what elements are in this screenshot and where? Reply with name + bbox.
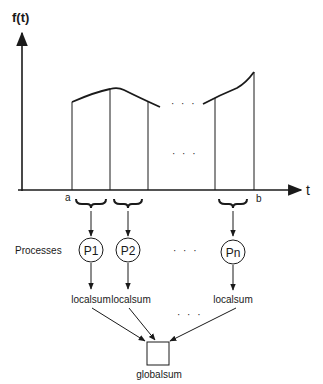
- parallel-integration-diagram: f(t) t · · · · · · a b Processes P1 P2 ·…: [0, 0, 323, 384]
- process-label: P1: [84, 244, 99, 258]
- process-to-localsum-arrows: [91, 263, 233, 290]
- braces: [76, 199, 247, 208]
- interval-start-label: a: [65, 192, 71, 203]
- process-node-p1: P1: [79, 238, 103, 262]
- process-node-pn: Pn: [221, 240, 245, 264]
- process-label: Pn: [226, 246, 241, 260]
- brace-1: [76, 199, 106, 208]
- function-curve-left: [72, 88, 160, 107]
- process-label: P2: [121, 244, 136, 258]
- brace-to-process-arrows: [91, 211, 233, 236]
- strip-lines: [72, 72, 254, 190]
- x-axis-label: t: [306, 182, 310, 198]
- localsum-label-2: localsum: [111, 294, 150, 305]
- localsum-to-globalsum-arrows: [92, 308, 236, 341]
- localsum-label-1: localsum: [71, 294, 110, 305]
- globalsum-box: [147, 342, 169, 365]
- interval-end-label: b: [256, 193, 262, 204]
- function-curve-right: [203, 72, 254, 104]
- globalsum-label: globalsum: [136, 369, 182, 380]
- localsum-ellipsis: · · ·: [177, 309, 203, 320]
- strip-ellipsis: · · ·: [172, 148, 198, 159]
- processes-row-label: Processes: [15, 245, 62, 256]
- process-ellipsis: · · ·: [173, 245, 199, 256]
- curve-ellipsis: · · ·: [171, 98, 197, 109]
- localsum-label-n: localsum: [213, 294, 252, 305]
- process-node-p2: P2: [116, 238, 140, 262]
- brace-n: [219, 199, 247, 208]
- y-axis-label: f(t): [12, 10, 29, 25]
- brace-2: [114, 199, 142, 208]
